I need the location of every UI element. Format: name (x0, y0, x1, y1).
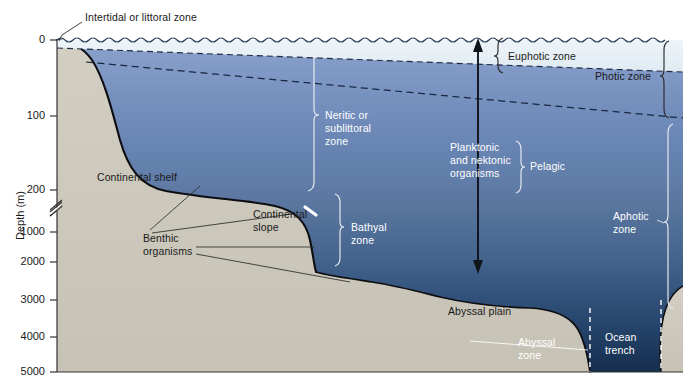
label-abyssal-zone-line2: zone (518, 349, 541, 362)
label-benthic-organisms-line1: Benthic (143, 232, 179, 245)
label-bathyal-zone-line2: zone (351, 234, 374, 247)
ocean-cross-section-svg (0, 0, 683, 390)
axis-tick-label-100: 100 (0, 109, 45, 121)
label-photic-zone: Photic zone (595, 70, 651, 83)
label-abyssal-plain: Abyssal plain (448, 305, 511, 318)
label-euphotic-zone: Euphotic zone (508, 50, 576, 63)
label-pelagic: Pelagic (530, 160, 565, 173)
label-bathyal-zone-line1: Bathyal (351, 221, 387, 234)
axis-tick-label-4000: 4000 (0, 330, 45, 342)
label-aphotic-zone-line2: zone (613, 223, 636, 236)
axis-ticks (50, 40, 57, 372)
label-aphotic-zone-line1: Aphotic (613, 210, 649, 223)
label-neritic-zone-line3: zone (325, 135, 348, 148)
label-planktonic-line3: organisms (450, 167, 499, 180)
label-planktonic-line1: Planktonic (450, 141, 499, 154)
label-planktonic-line2: and nektonic (450, 154, 511, 167)
label-ocean-trench-line2: trench (605, 344, 635, 357)
label-neritic-zone-line2: sublittoral (325, 122, 371, 135)
label-continental-slope-line2: slope (253, 221, 279, 234)
label-continental-slope-line1: Continental (253, 208, 307, 221)
label-continental-shelf: Continental shelf (97, 171, 177, 184)
axis-title-depth: Depth (m) (14, 191, 26, 240)
label-neritic-zone-line1: Neritic or (325, 109, 368, 122)
axis-tick-label-0: 0 (0, 33, 45, 45)
ocean-zones-figure: 0 100 200 1000 2000 3000 4000 5000 Depth… (0, 0, 683, 390)
axis-tick-label-3000: 3000 (0, 293, 45, 305)
label-abyssal-zone-line1: Abyssal (518, 336, 555, 349)
axis-tick-label-5000: 5000 (0, 365, 45, 377)
label-ocean-trench-line1: Ocean (605, 331, 636, 344)
label-benthic-organisms-line2: organisms (143, 245, 192, 258)
axis-tick-label-2000: 2000 (0, 255, 45, 267)
label-intertidal-zone: Intertidal or littoral zone (85, 11, 197, 24)
